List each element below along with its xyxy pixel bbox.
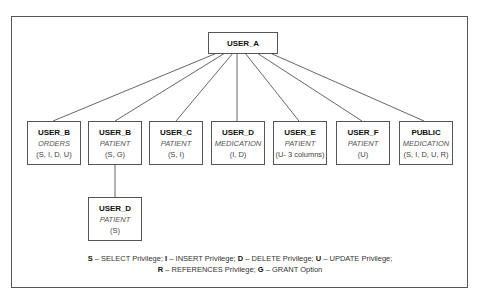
node-user-d-medication: USER_D MEDICATION (I, D) [211,121,265,165]
node-object: MEDICATION [403,138,450,149]
node-privileges: (S, G) [105,149,125,160]
legend-line-2: R – REFERENCES Privilege; G – GRANT Opti… [80,264,400,275]
edge-root-child-1 [115,53,225,121]
node-name: USER_B [38,127,70,138]
node-name: USER_E [284,127,315,138]
legend-text: – REFERENCES Privilege; [163,265,258,274]
node-name: USER_D [99,203,131,214]
node-object: PATIENT [100,214,131,225]
legend-text: – UPDATE Privilege; [321,254,392,263]
node-name: USER_C [160,127,192,138]
edge-root-child-0 [53,53,217,121]
edge-root-child-2 [176,53,233,121]
node-privileges: (S, I, D, U) [36,149,71,160]
node-user-c-patient: USER_C PATIENT (S, I) [149,121,203,165]
legend-text: – SELECT Privilege; [93,254,165,263]
node-privileges: (S) [110,225,120,236]
node-user-f-patient: USER_F PATIENT (U) [336,121,390,165]
node-user-b-orders: USER_B ORDERS (S, I, D, U) [27,121,81,165]
node-object: ORDERS [38,138,70,149]
node-name: PUBLIC [411,127,440,138]
node-public-medication: PUBLIC MEDICATION (S, I, D, U, R) [399,121,453,165]
node-object: PATIENT [348,138,379,149]
node-privileges: (I, D) [230,149,247,160]
legend-line-1: S – SELECT Privilege; I – INSERT Privile… [80,253,400,264]
legend-text: – DELETE Privilege; [243,254,316,263]
node-user-e-patient: USER_E PATIENT (U- 3 columns) [273,121,327,165]
node-object: PATIENT [285,138,316,149]
node-user-a: USER_A [208,32,278,54]
node-privileges: (S, I, D, U, R) [404,149,449,160]
node-name: USER_D [222,127,254,138]
node-privileges: (U- 3 columns) [275,149,324,160]
node-name: USER_B [99,127,131,138]
legend-text: – INSERT Privilege; [167,254,238,263]
node-privileges: (U) [358,149,368,160]
node-object: PATIENT [161,138,192,149]
node-object: PATIENT [100,138,131,149]
node-privileges: (S, I) [168,149,184,160]
node-user-d-patient: USER_D PATIENT (S) [88,197,142,241]
legend-text: – GRANT Option [264,265,323,274]
node-name: USER_A [227,38,259,49]
node-object: MEDICATION [215,138,262,149]
node-user-b-patient: USER_B PATIENT (S, G) [88,121,142,165]
node-name: USER_F [348,127,379,138]
